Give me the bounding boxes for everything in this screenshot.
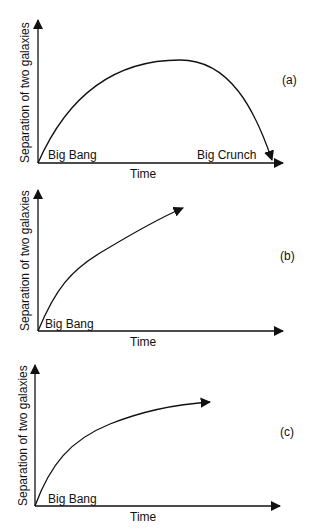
diagram-canvas: Separation of two galaxies Time Big Bang… <box>0 0 310 532</box>
separation-curve <box>35 402 210 506</box>
big-bang-label: Big Bang <box>48 492 97 506</box>
panel-tag: (b) <box>280 249 295 263</box>
x-axis-label: Time <box>130 335 157 349</box>
y-axis-label: Separation of two galaxies <box>18 190 32 331</box>
separation-curve <box>38 208 183 331</box>
panel-tag: (c) <box>280 425 294 439</box>
panel-a: Separation of two galaxies Time Big Bang… <box>18 20 297 181</box>
panel-b: Separation of two galaxies Time Big Bang… <box>18 190 295 349</box>
panel-tag: (a) <box>282 73 297 87</box>
big-bang-label: Big Bang <box>45 317 94 331</box>
y-axis-label: Separation of two galaxies <box>18 22 32 163</box>
x-axis-label: Time <box>130 167 157 181</box>
x-axis-label: Time <box>130 510 157 524</box>
panel-c: Separation of two galaxies Time Big Bang… <box>16 365 294 524</box>
y-axis-label: Separation of two galaxies <box>16 365 30 506</box>
big-crunch-label: Big Crunch <box>197 148 256 162</box>
big-bang-label: Big Bang <box>48 148 97 162</box>
